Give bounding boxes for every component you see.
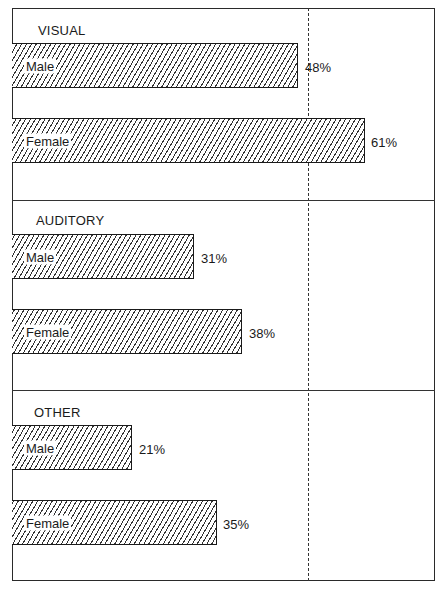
bar-label: Female — [24, 515, 71, 530]
value-label: 35% — [223, 517, 249, 532]
value-label: 48% — [305, 60, 331, 75]
section-divider — [12, 390, 435, 391]
section-title-visual: VISUAL — [38, 23, 85, 38]
bar-auditory-male: Male — [12, 234, 194, 279]
bar-label: Male — [24, 249, 56, 264]
value-label: 38% — [249, 326, 275, 341]
bar-label: Male — [24, 440, 56, 455]
bar-visual-female: Female — [12, 118, 365, 163]
value-label: 21% — [139, 442, 165, 457]
bar-other-female: Female — [12, 500, 217, 545]
bar-label: Male — [24, 58, 56, 73]
value-label: 31% — [201, 251, 227, 266]
section-divider — [12, 200, 435, 201]
value-label: 61% — [371, 135, 397, 150]
bar-visual-male: Male — [12, 43, 298, 88]
section-title-auditory: AUDITORY — [36, 213, 104, 228]
bar-label: Female — [24, 324, 71, 339]
section-title-other: OTHER — [34, 405, 81, 420]
reference-dashed-line — [308, 8, 309, 581]
chart-frame — [12, 8, 435, 581]
bar-auditory-female: Female — [12, 309, 242, 354]
bar-label: Female — [24, 133, 71, 148]
bar-other-male: Male — [12, 425, 132, 470]
